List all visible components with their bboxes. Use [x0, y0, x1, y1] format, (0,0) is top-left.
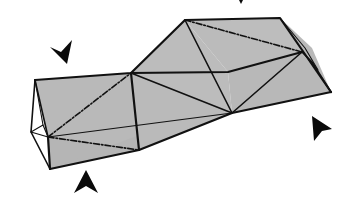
arrow-right-icon: [312, 116, 332, 141]
arrow-top-left-icon: [50, 40, 72, 64]
arrow-top-icon: [236, 0, 246, 4]
folded-surface-diagram: [0, 0, 356, 214]
arrow-bottom-icon: [74, 170, 98, 193]
